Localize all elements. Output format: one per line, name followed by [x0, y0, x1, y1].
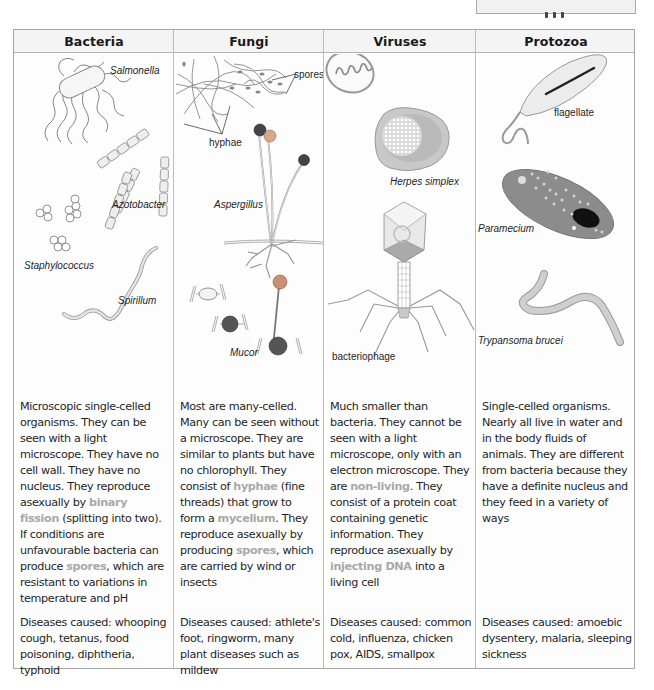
spores-pointer — [272, 74, 296, 94]
term-hyphae: hyphae — [233, 480, 277, 493]
label-bacteriophage: bacteriophage — [332, 351, 396, 362]
fungi-diagram: spores hyphae Aspergillus — [174, 54, 323, 394]
term-mycelium: mycelium — [218, 512, 276, 525]
staphylococcus-icon — [36, 195, 81, 251]
viruses-illustrations: Herpes simplex bacteriophage — [324, 54, 475, 394]
microorganism-comparison-table: Bacteria Fungi Viruses Protozoa — [13, 29, 635, 669]
label-mucor: Mucor — [230, 347, 258, 358]
header-bacteria: Bacteria — [14, 30, 174, 53]
bacteria-illustrations: Salmonella Azotobacter — [14, 54, 173, 394]
table-header-row: Bacteria Fungi Viruses Protozoa — [14, 30, 634, 53]
term-spores: spores — [66, 560, 106, 573]
term-injecting-dna: injecting DNA — [330, 560, 412, 573]
label-spirillum: Spirillum — [118, 295, 156, 306]
column-bacteria: Salmonella Azotobacter — [14, 54, 173, 668]
helical-virus-icon — [324, 54, 379, 99]
viruses-diagram: Herpes simplex bacteriophage — [324, 54, 475, 394]
mucor-icon — [190, 275, 302, 355]
term-spores: spores — [236, 544, 276, 557]
description-text: Single-celled organisms. Nearly all live… — [482, 400, 628, 525]
header-viruses: Viruses — [324, 30, 476, 53]
description-text: Microscopic single-celled organisms. The… — [20, 400, 159, 509]
corner-caption-box — [476, 0, 636, 14]
protozoa-description: Single-celled organisms. Nearly all live… — [482, 399, 632, 527]
protozoa-diseases: Diseases caused: amoebic dysentery, mala… — [482, 615, 634, 663]
cropped-caption-text — [545, 3, 579, 9]
azotobacter-icon — [97, 128, 169, 229]
fungi-diseases: Diseases caused: athlete's foot, ringwor… — [180, 615, 321, 679]
label-flagellate: flagellate — [554, 107, 594, 118]
bacteriophage-icon — [328, 202, 474, 356]
label-herpes-simplex: Herpes simplex — [390, 176, 460, 187]
label-salmonella: Salmonella — [110, 65, 160, 76]
spirillum-icon — [64, 248, 156, 319]
protozoa-illustrations: flagellate Paramecium Trypansoma brucei — [476, 54, 636, 394]
paramecium-icon — [493, 155, 624, 253]
column-viruses: Herpes simplex bacteriophage Much smalle… — [324, 54, 475, 668]
column-fungi: spores hyphae Aspergillus — [174, 54, 323, 668]
label-azotobacter: Azotobacter — [111, 199, 166, 210]
header-fungi: Fungi — [174, 30, 324, 53]
fungi-illustrations: spores hyphae Aspergillus — [174, 54, 323, 394]
herpes-simplex-icon — [375, 108, 449, 171]
bacteria-description: Microscopic single-celled organisms. The… — [20, 399, 169, 607]
bacteria-diseases: Diseases caused: whooping cough, tetanus… — [20, 615, 171, 679]
label-aspergillus: Aspergillus — [213, 199, 263, 210]
label-spores: spores — [294, 69, 323, 80]
header-protozoa: Protozoa — [476, 30, 636, 53]
protozoa-diagram: flagellate Paramecium Trypansoma brucei — [476, 54, 636, 394]
label-hyphae: hyphae — [209, 137, 242, 148]
term-non-living: non-living — [350, 480, 410, 493]
bacteria-diagram: Salmonella Azotobacter — [14, 54, 173, 394]
flagellate-icon — [503, 55, 607, 144]
viruses-diseases: Diseases caused: common cold, influenza,… — [330, 615, 473, 663]
fungi-description: Most are many-celled. Many can be seen w… — [180, 399, 319, 591]
viruses-description: Much smaller than bacteria. They cannot … — [330, 399, 471, 591]
label-paramecium: Paramecium — [478, 223, 534, 234]
column-protozoa: flagellate Paramecium Trypansoma brucei — [476, 54, 636, 668]
label-trypansoma-brucei: Trypansoma brucei — [478, 335, 564, 346]
label-staphylococcus: Staphylococcus — [24, 260, 94, 271]
hyphae-pointer — [184, 106, 230, 134]
